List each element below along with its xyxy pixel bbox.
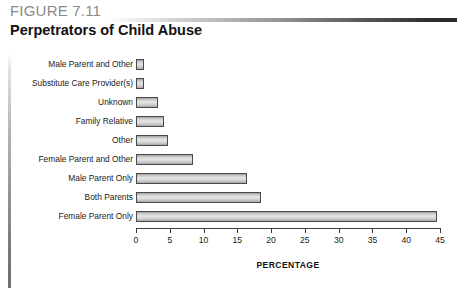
bar-wrapper [136, 207, 437, 226]
bar-category-label: Both Parents [0, 188, 133, 207]
x-axis-tick-label: 20 [266, 235, 276, 245]
x-axis-tick-label: 40 [401, 235, 411, 245]
bar [136, 135, 168, 146]
bar-chart-plot: Male Parent and OtherSubstitute Care Pro… [0, 0, 465, 288]
bar-category-label: Female Parent Only [0, 207, 133, 226]
bar-row: Female Parent and Other [0, 150, 465, 169]
bar [136, 211, 437, 222]
x-axis-tick [136, 228, 137, 233]
bar [136, 97, 158, 108]
bar-row: Family Relative [0, 112, 465, 131]
bar-wrapper [136, 93, 158, 112]
x-axis-tick [170, 228, 171, 233]
x-axis-tick [339, 228, 340, 233]
x-axis-tick [440, 228, 441, 233]
bar-wrapper [136, 112, 164, 131]
bar [136, 59, 144, 70]
bar-wrapper [136, 55, 144, 74]
bar-rows: Male Parent and OtherSubstitute Care Pro… [0, 55, 465, 226]
bar-row: Female Parent Only [0, 207, 465, 226]
bar-row: Male Parent and Other [0, 55, 465, 74]
x-axis-tick [406, 228, 407, 233]
bar-category-label: Substitute Care Provider(s) [0, 74, 133, 93]
bar [136, 154, 193, 165]
x-axis-tick-label: 10 [199, 235, 209, 245]
x-axis-tick-label: 45 [435, 235, 445, 245]
x-axis-tick-label: 30 [334, 235, 344, 245]
x-axis-tick [271, 228, 272, 233]
bar-category-label: Female Parent and Other [0, 150, 133, 169]
bar-category-label: Family Relative [0, 112, 133, 131]
bar-row: Male Parent Only [0, 169, 465, 188]
bar-category-label: Male Parent Only [0, 169, 133, 188]
x-axis-line [136, 228, 440, 229]
bar-category-label: Male Parent and Other [0, 55, 133, 74]
bar-row: Substitute Care Provider(s) [0, 74, 465, 93]
bar-category-label: Other [0, 131, 133, 150]
bar [136, 192, 261, 203]
x-axis-tick-label: 15 [233, 235, 243, 245]
x-axis-tick-label: 35 [368, 235, 378, 245]
bar-wrapper [136, 188, 261, 207]
x-axis-tick [305, 228, 306, 233]
bar [136, 78, 144, 89]
bar-wrapper [136, 74, 144, 93]
bar-row: Unknown [0, 93, 465, 112]
bar [136, 116, 164, 127]
x-axis-tick [237, 228, 238, 233]
x-axis-tick-label: 0 [134, 235, 139, 245]
x-axis-tick-label: 25 [300, 235, 310, 245]
x-axis-tick [204, 228, 205, 233]
bar-row: Both Parents [0, 188, 465, 207]
bar [136, 173, 247, 184]
bar-wrapper [136, 169, 247, 188]
figure-container: FIGURE 7.11 Perpetrators of Child Abuse … [0, 0, 465, 288]
bar-wrapper [136, 131, 168, 150]
bar-row: Other [0, 131, 465, 150]
x-axis-tick-label: 5 [167, 235, 172, 245]
x-axis-title: PERCENTAGE [136, 260, 440, 270]
bar-category-label: Unknown [0, 93, 133, 112]
x-axis-tick [372, 228, 373, 233]
bar-wrapper [136, 150, 193, 169]
